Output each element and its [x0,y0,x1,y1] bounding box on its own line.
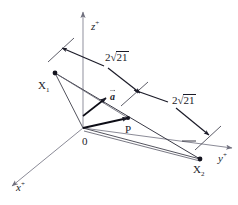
vector-overarrow-icon [110,88,115,93]
point-label-x1: X1 [38,80,49,94]
dimension-label-lower: 2√21 [172,94,196,107]
x-axis-label: x+ [16,181,25,193]
dim-lower-arrow-a [134,90,168,102]
vertex-dot-p [126,116,130,120]
x-axis [12,128,83,186]
vertex-dot-x1 [53,71,58,76]
vector-a-head-extra [83,98,106,116]
y-axis-label: y+ [218,152,227,164]
vector-label-a: a [110,92,115,102]
dim-lower-arrow-b [176,108,209,135]
witness-line-x1 [48,38,74,62]
vector-diagram: z+ y+ x+ X1 X2 0 P a 2√21 2√21 [0,0,238,205]
origin-label: 0 [82,136,88,147]
edge-o-x2 [83,128,200,159]
z-axis-label: z+ [91,20,99,32]
vertex-dot-x2 [198,157,203,162]
dimension-label-upper: 2√21 [105,51,129,64]
point-label-x2: X2 [193,164,204,178]
y-axis [83,128,232,148]
vector-a [83,118,128,128]
point-label-p: P [125,124,131,135]
